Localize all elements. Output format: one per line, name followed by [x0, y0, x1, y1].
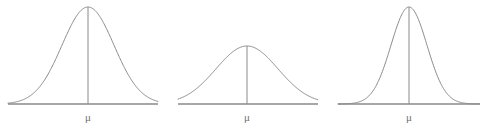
gaussian-curve — [178, 46, 318, 100]
distribution-panel: μ — [8, 7, 158, 123]
distribution-panel: μ — [178, 46, 318, 123]
mean-label-mu: μ — [406, 111, 412, 123]
distribution-panel: μ — [338, 7, 480, 123]
distribution-curves-svg: μμμ — [0, 0, 488, 128]
mean-label-mu: μ — [244, 111, 250, 123]
gaussian-curve — [8, 7, 158, 103]
normal-curves-figure: μμμ — [0, 0, 488, 128]
mean-label-mu: μ — [85, 111, 91, 123]
